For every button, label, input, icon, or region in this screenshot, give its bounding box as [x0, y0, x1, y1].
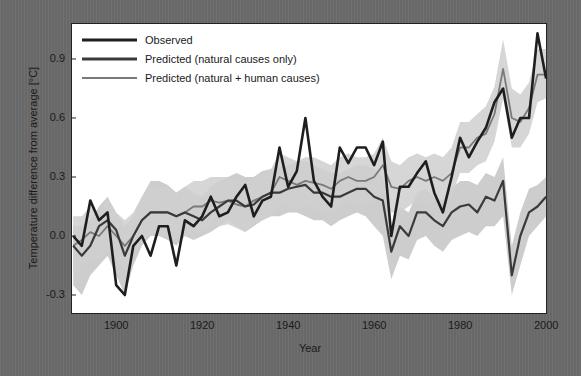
y-tick-label: 0.9	[25, 52, 65, 64]
x-axis-label: Year	[290, 342, 330, 354]
legend-label: Predicted (natural causes only)	[145, 53, 297, 65]
legend: Observed Predicted (natural causes only)…	[82, 30, 320, 87]
x-tick-label: 1920	[182, 319, 222, 331]
legend-item-observed: Observed	[82, 30, 320, 49]
x-tick-label: 2000	[526, 319, 566, 331]
y-axis-label: Temperature difference from average [°C]	[27, 67, 39, 269]
x-tick-label: 1940	[268, 319, 308, 331]
x-tick-label: 1960	[354, 319, 394, 331]
chart-figure: -0.30.00.30.60.9 19001920194019601980200…	[0, 0, 581, 376]
legend-label: Predicted (natural + human causes)	[145, 72, 320, 84]
legend-item-natural: Predicted (natural causes only)	[82, 49, 320, 68]
legend-swatch-natural	[82, 56, 137, 62]
legend-swatch-natural-human	[82, 75, 137, 81]
x-tick-label: 1980	[440, 319, 480, 331]
legend-swatch-observed	[82, 37, 137, 43]
x-tick-label: 1900	[96, 319, 136, 331]
legend-item-natural-human: Predicted (natural + human causes)	[82, 68, 320, 87]
legend-label: Observed	[145, 34, 193, 46]
y-tick-label: -0.3	[25, 288, 65, 300]
